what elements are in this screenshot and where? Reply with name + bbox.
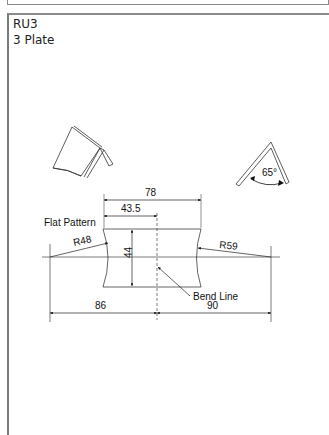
dim-right-offset: 90 bbox=[207, 300, 219, 311]
dim-height: 44 bbox=[123, 246, 134, 258]
dim-left-radius: R48 bbox=[72, 233, 93, 248]
flat-pattern-label: Flat Pattern bbox=[44, 217, 96, 228]
bend-angle-label: 65° bbox=[262, 167, 277, 178]
isometric-view bbox=[53, 126, 113, 178]
side-view-bend: 65° bbox=[236, 142, 289, 186]
dim-left-offset: 86 bbox=[95, 300, 107, 311]
dim-half-width: 43.5 bbox=[121, 203, 141, 214]
dim-right-radius: R59 bbox=[219, 239, 239, 252]
flat-pattern bbox=[42, 194, 280, 322]
dim-overall-width: 78 bbox=[145, 187, 157, 198]
